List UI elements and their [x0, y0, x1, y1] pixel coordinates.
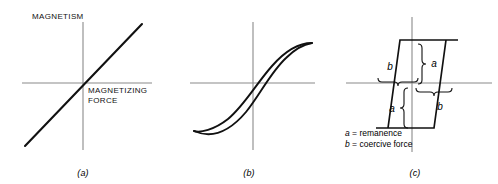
brace-label-a-lower: a [389, 103, 395, 114]
magnetism-hysteresis-figure: MAGNETISM MAGNETIZING FORCE (a) (b) b [0, 0, 498, 184]
brace-a-upper-right [418, 44, 426, 84]
panel-a-linear-magnetization: MAGNETISM MAGNETIZING FORCE (a) [0, 0, 166, 184]
panel-b-plot [166, 0, 332, 184]
legend-term-coercive-force: coercive force [359, 139, 412, 149]
panel-c-plot: b a a b [332, 0, 498, 184]
brace-b-lower-right [416, 88, 452, 96]
legend-row-remanence: a = remanence [345, 128, 412, 139]
panel-c-caption: (c) [332, 168, 498, 178]
brace-label-a-upper: a [431, 58, 437, 69]
y-axis-label-magnetism: MAGNETISM [32, 12, 84, 22]
brace-label-b-lower: b [437, 101, 443, 112]
x-axis-label-magnetizing-force: MAGNETIZING FORCE [88, 86, 147, 106]
panel-a-caption: (a) [0, 168, 166, 178]
panel-b-hysteresis-loop: (b) [166, 0, 332, 184]
brace-label-b-upper: b [387, 61, 393, 72]
legend-symbol-b: b [345, 139, 350, 149]
legend-equals-b: = [352, 139, 357, 149]
legend-term-remanence: remanence [359, 128, 402, 138]
legend-symbol-a: a [345, 128, 350, 138]
panel-c-legend: a = remanence b = coercive force [345, 128, 412, 150]
panel-c-square-hysteresis-loop: b a a b a = remanence b = coercive force [332, 0, 498, 184]
panel-b-caption: (b) [166, 168, 332, 178]
loop-right-branch [376, 40, 446, 128]
brace-a-lower-left [400, 88, 408, 128]
legend-row-coercive-force: b = coercive force [345, 139, 412, 150]
legend-equals-a: = [352, 128, 357, 138]
